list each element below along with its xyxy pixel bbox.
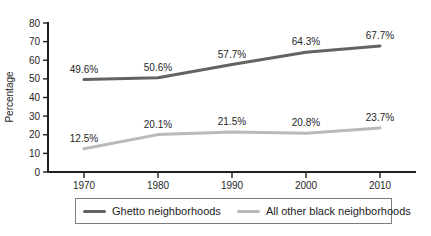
data-label: 21.5% <box>218 116 246 127</box>
x-tick-label: 2010 <box>369 180 392 191</box>
data-label: 12.5% <box>70 133 98 144</box>
legend-label-other-black: All other black neighborhoods <box>266 205 411 217</box>
y-tick-label: 0 <box>34 167 40 178</box>
series-line-1 <box>84 128 380 149</box>
legend-swatch-ghetto-line <box>83 210 106 213</box>
data-label: 49.6% <box>70 64 98 75</box>
data-label: 57.7% <box>218 49 246 60</box>
chart-legend: Ghetto neighborhoods All other black nei… <box>75 198 392 224</box>
y-tick-label: 30 <box>29 111 41 122</box>
y-tick-label: 10 <box>29 148 41 159</box>
legend-item-ghetto: Ghetto neighborhoods <box>83 205 221 217</box>
y-tick-label: 80 <box>29 18 41 29</box>
data-label: 20.1% <box>144 119 172 130</box>
data-label: 67.7% <box>366 30 394 41</box>
y-tick-label: 20 <box>29 129 41 140</box>
legend-swatch-other-black-line <box>237 210 260 213</box>
data-label: 50.6% <box>144 62 172 73</box>
chart-plot-area: 0102030405060708019701980199020002010Per… <box>0 0 431 194</box>
legend-item-other-black: All other black neighborhoods <box>237 205 411 217</box>
legend-label-ghetto: Ghetto neighborhoods <box>112 205 221 217</box>
x-tick-label: 2000 <box>295 180 318 191</box>
data-label: 20.8% <box>292 117 320 128</box>
data-label: 23.7% <box>366 112 394 123</box>
y-tick-label: 40 <box>29 92 41 103</box>
x-tick-label: 1990 <box>221 180 244 191</box>
y-axis-title: Percentage <box>4 71 15 123</box>
y-tick-label: 70 <box>29 36 41 47</box>
x-tick-label: 1980 <box>147 180 170 191</box>
line-chart-figure: 0102030405060708019701980199020002010Per… <box>0 0 431 236</box>
x-tick-label: 1970 <box>73 180 96 191</box>
y-tick-label: 60 <box>29 55 41 66</box>
data-label: 64.3% <box>292 36 320 47</box>
y-tick-label: 50 <box>29 73 41 84</box>
